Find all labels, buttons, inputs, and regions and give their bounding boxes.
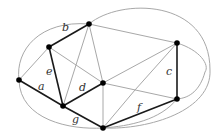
edge-label-b: b [62,21,69,34]
edge [89,24,103,83]
outer-arc-left [19,24,89,80]
node [100,80,106,86]
node [46,44,52,50]
node [60,103,66,109]
node [16,77,22,83]
edge-label-c: c [166,65,172,78]
edge-label-d: d [79,81,86,94]
outer-arc-right [177,43,206,99]
edge [103,83,177,99]
edge-label-g: g [72,113,79,126]
edge-label-a: a [38,80,45,93]
node [100,125,106,131]
node [174,96,180,102]
node [174,40,180,46]
node [86,21,92,27]
edge-label-e: e [46,65,53,78]
edge-g [63,106,103,128]
graph-diagram: a b c d e f g [0,0,220,139]
edge [89,24,177,43]
edge [19,47,49,80]
